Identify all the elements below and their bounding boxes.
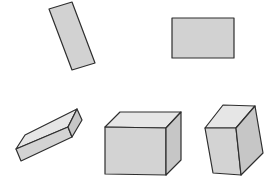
horizontal-rectangle-face [172,18,234,58]
shapes-canvas [0,0,280,184]
flat-prism [16,109,82,161]
tilted-prism-front-face [205,128,241,175]
large-cube [105,112,181,175]
horizontal-rectangle [172,18,234,58]
tilted-rectangle [49,2,95,70]
tilted-rectangle-face [49,2,95,70]
large-cube-front-face [105,127,166,175]
tilted-prism [205,105,263,175]
